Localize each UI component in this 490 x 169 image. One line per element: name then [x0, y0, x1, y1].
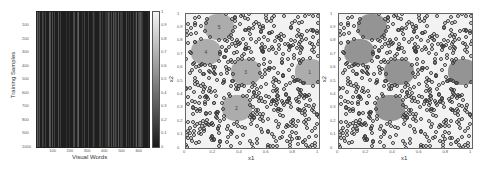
data-point-marker	[449, 142, 453, 146]
data-point-marker	[437, 93, 441, 97]
data-point-marker	[403, 118, 407, 122]
data-point-marker	[469, 42, 473, 46]
x-tick: 0.2	[363, 149, 369, 154]
data-point-marker	[434, 52, 438, 56]
data-point-marker	[432, 108, 436, 112]
data-point-marker	[339, 102, 343, 106]
data-point-marker	[352, 37, 356, 41]
data-point-marker	[343, 68, 347, 72]
data-point-marker	[354, 72, 358, 76]
data-point-marker	[382, 84, 386, 88]
y-tick: 0.9	[330, 24, 336, 29]
data-point-marker	[426, 39, 430, 43]
data-point-marker	[363, 134, 367, 138]
data-point-marker	[443, 63, 447, 67]
data-point-marker	[390, 84, 394, 88]
data-point-marker	[456, 14, 460, 18]
data-point-marker	[417, 16, 421, 20]
data-point-marker	[373, 101, 377, 105]
data-point-marker	[457, 94, 461, 98]
y-tick: 0.3	[330, 104, 336, 109]
data-point-marker	[433, 135, 437, 139]
data-point-marker	[458, 126, 462, 130]
data-point-marker	[435, 14, 439, 18]
data-point-marker	[370, 59, 374, 63]
data-point-marker	[461, 98, 465, 102]
data-point-marker	[367, 94, 371, 98]
data-point-marker	[425, 24, 429, 28]
data-point-marker	[450, 21, 454, 25]
data-point-marker	[460, 117, 464, 121]
data-point-marker	[469, 54, 473, 58]
data-point-marker	[464, 14, 468, 18]
data-point-marker	[440, 68, 444, 72]
data-point-marker	[365, 67, 369, 71]
data-point-marker	[449, 119, 453, 123]
data-point-marker	[464, 106, 468, 110]
data-point-marker	[429, 71, 433, 75]
data-point-marker	[339, 95, 343, 99]
x-tick: 1	[469, 149, 471, 154]
data-point-marker	[423, 30, 427, 34]
data-point-marker	[409, 108, 413, 112]
data-point-marker	[351, 95, 355, 99]
data-point-marker	[412, 85, 416, 89]
data-point-marker	[393, 54, 397, 58]
data-point-marker	[425, 84, 429, 88]
data-point-marker	[432, 38, 436, 42]
data-point-marker	[366, 72, 370, 76]
data-point-marker	[338, 33, 342, 37]
data-point-marker	[346, 124, 350, 128]
data-point-marker	[456, 113, 460, 117]
data-point-marker	[402, 50, 406, 54]
data-point-marker	[414, 49, 418, 53]
y-tick: 0.5	[330, 78, 336, 83]
data-point-marker	[469, 80, 473, 84]
data-point-marker	[391, 41, 395, 45]
data-point-marker	[370, 144, 374, 148]
data-point-marker	[341, 86, 345, 90]
data-point-marker	[445, 56, 449, 60]
data-point-marker	[425, 108, 429, 112]
y-tick: 1	[330, 11, 332, 16]
data-point-marker	[386, 60, 390, 64]
data-point-marker	[409, 95, 413, 99]
data-point-marker	[466, 126, 470, 130]
data-point-marker	[364, 123, 368, 127]
data-point-marker	[435, 87, 439, 91]
data-point-marker	[428, 144, 432, 148]
data-point-marker	[447, 131, 451, 135]
data-point-marker	[414, 119, 418, 123]
data-point-marker	[356, 63, 360, 67]
data-point-marker	[459, 146, 463, 149]
x-tick: 0.8	[442, 149, 448, 154]
data-point-marker	[352, 63, 356, 67]
data-point-marker	[448, 99, 452, 103]
data-point-marker	[339, 41, 343, 45]
data-point-marker	[391, 141, 395, 145]
data-point-marker	[360, 76, 364, 80]
scatter-plot-area-2	[338, 13, 473, 149]
data-point-marker	[400, 28, 404, 32]
data-point-marker	[427, 51, 431, 55]
data-point-marker	[451, 108, 455, 112]
data-point-marker	[394, 133, 398, 137]
data-point-marker	[342, 32, 346, 36]
data-point-marker	[386, 25, 390, 29]
data-point-marker	[401, 98, 405, 102]
data-point-marker	[410, 63, 414, 67]
data-point-marker	[440, 48, 444, 52]
data-point-marker	[357, 111, 361, 115]
scatter-2-x-label: x1	[401, 155, 407, 161]
data-point-marker	[395, 84, 399, 88]
data-point-marker	[427, 98, 431, 102]
data-point-marker	[378, 71, 382, 75]
data-point-marker	[361, 111, 365, 115]
data-point-marker	[419, 130, 423, 134]
data-point-marker	[360, 123, 364, 127]
data-point-marker	[345, 129, 349, 133]
data-point-marker	[350, 140, 354, 144]
data-point-marker	[466, 141, 470, 145]
data-point-marker	[382, 144, 386, 148]
data-point-marker	[401, 32, 405, 36]
